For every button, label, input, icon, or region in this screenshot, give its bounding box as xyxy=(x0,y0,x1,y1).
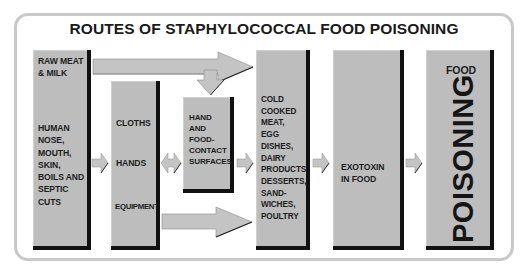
arrow-exotoxin-to-poisoning xyxy=(0,0,528,276)
